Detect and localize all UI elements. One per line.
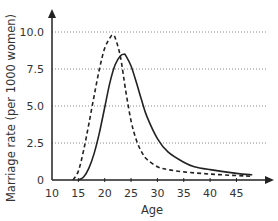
y-axis-arrow-icon (48, 9, 56, 18)
y-axis-title: Marriage rate (per 1000 women) (4, 14, 18, 202)
x-tick-label: 30 (150, 187, 164, 200)
y-axis-ticks: 02.55.07.510.0 (20, 26, 45, 187)
x-tick-label: 40 (203, 187, 217, 200)
data-curves (73, 35, 252, 180)
x-axis-ticks: 1015202530354045 (45, 178, 243, 200)
x-tick-label: 15 (71, 187, 85, 200)
dashed-curve (73, 35, 252, 180)
y-tick-label: 10.0 (20, 26, 45, 39)
x-tick-label: 45 (229, 187, 243, 200)
x-axis-arrow-icon (265, 176, 274, 184)
gridlines (52, 32, 268, 143)
solid-curve (78, 54, 252, 180)
x-tick-label: 25 (124, 187, 138, 200)
y-tick-label: 7.5 (27, 63, 45, 76)
y-tick-label: 5.0 (27, 100, 45, 113)
marriage-rate-chart: 1015202530354045 02.55.07.510.0 Age Marr… (0, 0, 278, 221)
x-tick-label: 20 (98, 187, 112, 200)
x-tick-label: 10 (45, 187, 59, 200)
y-tick-label: 2.5 (27, 137, 45, 150)
x-tick-label: 35 (177, 187, 191, 200)
x-axis-title: Age (141, 203, 163, 217)
y-tick-label: 0 (37, 174, 44, 187)
